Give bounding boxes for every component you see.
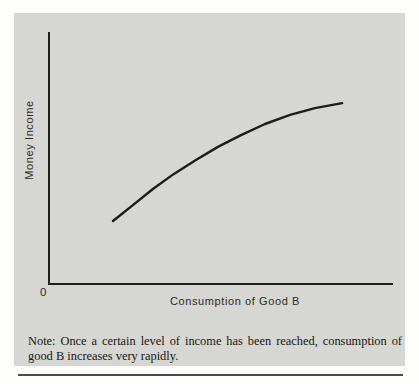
chart-canvas — [14, 13, 405, 366]
x-axis-label: Consumption of Good B — [170, 295, 300, 307]
bottom-rule — [18, 374, 403, 376]
note-line-2: good B increases very rapidly. — [28, 349, 402, 364]
figure-panel: Money Income 0 Consumption of Good B Not… — [14, 13, 405, 366]
origin-label: 0 — [40, 286, 46, 298]
y-axis-label: Money Income — [23, 100, 35, 179]
figure-note: Note: Once a certain level of income has… — [28, 334, 402, 364]
page: Money Income 0 Consumption of Good B Not… — [0, 0, 419, 384]
income-consumption-curve — [113, 103, 342, 221]
axes-lines — [49, 32, 393, 284]
note-line-1: Note: Once a certain level of income has… — [28, 334, 402, 349]
